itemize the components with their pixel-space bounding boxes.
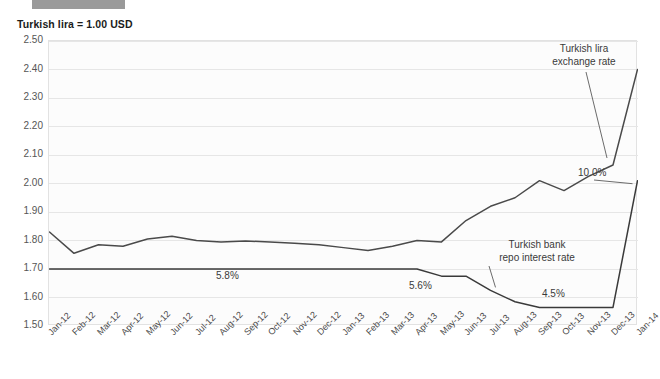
header-accent-bar bbox=[32, 0, 125, 9]
page-title: Turkish lira = 1.00 USD bbox=[17, 18, 133, 30]
y-tick-label: 2.40 bbox=[3, 63, 43, 74]
repo-label-100: 10.0% bbox=[578, 167, 606, 178]
y-tick-label: 2.10 bbox=[3, 148, 43, 159]
repo-rate-annotation-line1: Turkish bank bbox=[477, 239, 597, 252]
y-tick-label: 1.60 bbox=[3, 291, 43, 302]
y-tick-label: 1.90 bbox=[3, 205, 43, 216]
repo-rate-annotation: Turkish bank repo interest rate bbox=[477, 239, 597, 264]
y-tick-label: 1.50 bbox=[3, 319, 43, 330]
exchange-rate-annotation: Turkish lira exchange rate bbox=[528, 43, 640, 68]
y-tick-label: 2.30 bbox=[3, 91, 43, 102]
y-tick-label: 2.20 bbox=[3, 120, 43, 131]
exchange-rate-annotation-line2: exchange rate bbox=[528, 56, 640, 69]
repo-rate-annotation-line2: repo interest rate bbox=[477, 252, 597, 265]
series-lines bbox=[49, 41, 638, 326]
y-tick-label: 1.70 bbox=[3, 262, 43, 273]
y-tick-label: 2.50 bbox=[3, 34, 43, 45]
y-tick-label: 1.80 bbox=[3, 234, 43, 245]
repo-label-56: 5.6% bbox=[409, 280, 432, 291]
plot-area bbox=[48, 40, 637, 325]
repo-label-45: 4.5% bbox=[542, 288, 565, 299]
y-tick-label: 2.00 bbox=[3, 177, 43, 188]
repo-label-58: 5.8% bbox=[216, 270, 239, 281]
exchange-rate-annotation-line1: Turkish lira bbox=[528, 43, 640, 56]
